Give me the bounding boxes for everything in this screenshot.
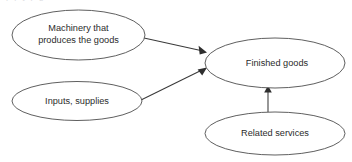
node-finished-goods[interactable]: Finished goods [205, 38, 345, 88]
node-inputs[interactable]: Inputs, supplies [12, 82, 142, 121]
edge-line [144, 38, 203, 51]
edge-services-to-finished [264, 86, 272, 113]
diagram-canvas: p p y p g Machinery that produces the go… [0, 0, 352, 162]
node-label-line-1: Finished goods [246, 58, 309, 68]
edge-inputs-to-finished [141, 68, 207, 101]
node-label-line-1: Machinery that [48, 23, 109, 33]
edge-machinery-to-finished [144, 38, 207, 54]
edge-line [141, 70, 203, 101]
node-label-line-1: Inputs, supplies [45, 96, 109, 106]
node-label-line-2: produces the goods [38, 35, 119, 45]
node-label-line-1: Related services [241, 128, 309, 138]
flowchart-svg: Machinery that produces the goods Inputs… [0, 0, 352, 162]
node-machinery[interactable]: Machinery that produces the goods [12, 10, 145, 60]
arrowhead-icon [199, 46, 207, 55]
node-related-services[interactable]: Related services [205, 112, 345, 155]
